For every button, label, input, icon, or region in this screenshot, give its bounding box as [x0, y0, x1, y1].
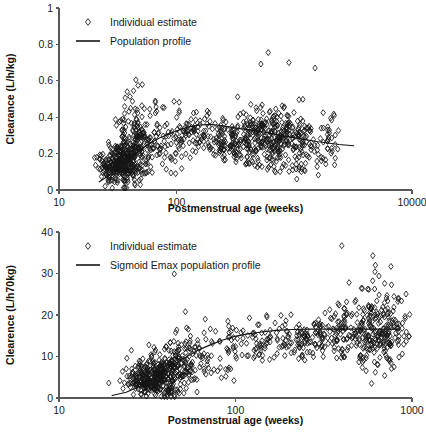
data-point-diamond — [103, 183, 107, 189]
data-point-diamond — [130, 98, 134, 104]
data-point-diamond — [189, 116, 193, 122]
data-point-diamond — [332, 162, 336, 168]
data-point-diamond — [125, 89, 129, 95]
data-point-diamond — [173, 171, 177, 177]
scatter-points-group — [92, 50, 340, 191]
data-point-diamond — [140, 82, 144, 88]
data-point-diamond — [261, 110, 265, 116]
data-point-diamond — [160, 161, 164, 167]
legend-label: Sigmoid Emax population profile — [110, 259, 261, 271]
legend-label: Individual estimate — [110, 16, 197, 28]
data-point-diamond — [158, 352, 162, 358]
data-point-diamond — [203, 316, 207, 322]
data-point-diamond — [402, 341, 406, 347]
data-point-diamond — [382, 280, 386, 286]
data-point-diamond — [273, 320, 277, 326]
y-tick-label: 0.6 — [38, 74, 53, 86]
data-point-diamond — [184, 151, 188, 157]
data-point-diamond — [283, 152, 287, 158]
data-point-diamond — [279, 312, 283, 318]
data-point-diamond — [382, 373, 386, 379]
data-point-diamond — [240, 352, 244, 358]
data-point-diamond — [236, 114, 240, 120]
data-point-diamond — [280, 119, 284, 125]
data-point-diamond — [321, 110, 325, 116]
data-point-diamond — [389, 263, 393, 269]
data-point-diamond — [208, 326, 212, 332]
x-tick-label: 10 — [53, 404, 65, 416]
y-tick-label: 1 — [47, 2, 53, 14]
data-point-diamond — [202, 330, 206, 336]
data-point-diamond — [371, 253, 375, 259]
data-point-diamond — [126, 118, 130, 124]
y-tick-label: 10 — [41, 350, 53, 362]
data-point-diamond — [347, 280, 351, 286]
legend-marker-diamond — [85, 243, 90, 250]
data-point-diamond — [340, 243, 344, 249]
data-point-diamond — [226, 318, 230, 324]
data-point-diamond — [323, 310, 327, 316]
data-point-diamond — [247, 315, 251, 321]
data-point-diamond — [355, 311, 359, 317]
data-point-diamond — [129, 347, 133, 353]
y-tick-label: 30 — [41, 267, 53, 279]
data-point-diamond — [259, 61, 263, 67]
data-point-diamond — [295, 176, 299, 182]
data-point-diamond — [172, 271, 176, 277]
data-point-diamond — [148, 106, 152, 112]
data-point-diamond — [370, 278, 374, 284]
chart-panel-bottom: 010203040101001000Postmenstrual age (wee… — [0, 220, 426, 440]
data-point-diamond — [336, 128, 340, 134]
data-point-diamond — [392, 293, 396, 299]
x-tick-label: 10 — [53, 196, 65, 208]
data-point-diamond — [286, 157, 290, 163]
data-point-diamond — [219, 375, 223, 381]
data-point-diamond — [249, 101, 253, 107]
x-axis-title: Postmenstrual age (weeks) — [168, 414, 303, 426]
data-point-diamond — [136, 82, 140, 88]
data-point-diamond — [292, 110, 296, 116]
data-point-diamond — [148, 113, 152, 119]
data-point-diamond — [345, 347, 349, 353]
y-tick-label: 0.8 — [38, 38, 53, 50]
legend: Individual estimatePopulation profile — [76, 16, 197, 47]
data-point-diamond — [172, 98, 176, 104]
data-point-diamond — [389, 282, 393, 288]
data-point-diamond — [268, 327, 272, 333]
data-point-diamond — [313, 65, 317, 71]
data-point-diamond — [183, 309, 187, 315]
data-point-diamond — [377, 273, 381, 279]
data-point-diamond — [361, 311, 365, 317]
y-tick-label: 0 — [47, 184, 53, 196]
data-point-diamond — [179, 166, 183, 172]
data-point-diamond — [107, 380, 111, 386]
data-point-diamond — [372, 286, 376, 292]
data-point-diamond — [122, 103, 126, 109]
figure-clearance-vs-postmenstrual-age: 00.20.40.60.811010010000Postmenstrual ag… — [0, 0, 426, 440]
y-axis-title: Clearance (L/h/kg) — [4, 53, 16, 144]
y-tick-label: 20 — [41, 309, 53, 321]
y-tick-label: 40 — [41, 226, 53, 238]
data-point-diamond — [125, 355, 129, 361]
data-point-diamond — [404, 291, 408, 297]
scatter-plot-bottom: 010203040101001000Postmenstrual age (wee… — [0, 220, 426, 440]
data-point-diamond — [334, 355, 338, 361]
data-point-diamond — [316, 172, 320, 178]
y-tick-label: 0.4 — [38, 111, 53, 123]
data-point-diamond — [195, 389, 199, 395]
data-point-diamond — [244, 340, 248, 346]
data-point-diamond — [224, 373, 228, 379]
data-point-diamond — [373, 262, 377, 268]
x-tick-label: 1000 — [400, 404, 424, 416]
data-point-diamond — [375, 298, 379, 304]
data-point-diamond — [193, 117, 197, 123]
data-point-diamond — [174, 114, 178, 120]
data-point-diamond — [202, 145, 206, 151]
x-tick-label: 10000 — [397, 196, 426, 208]
data-point-diamond — [131, 88, 135, 94]
data-point-diamond — [369, 380, 373, 386]
y-tick-label: 0 — [47, 392, 53, 404]
scatter-plot-top: 00.20.40.60.811010010000Postmenstrual ag… — [0, 0, 426, 220]
y-axis-title: Clearence (L/h70kg) — [4, 265, 16, 365]
data-point-diamond — [280, 103, 284, 109]
